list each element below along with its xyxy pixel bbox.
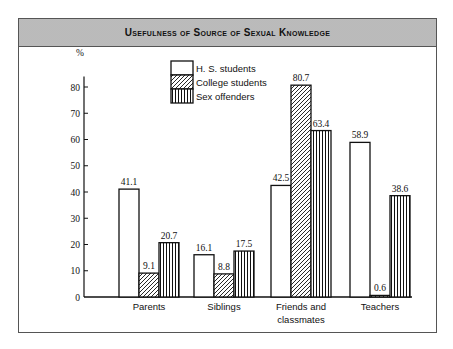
bar-value-label: 9.1	[143, 261, 155, 271]
legend-swatch	[171, 75, 193, 89]
category-label: Teachers	[361, 301, 400, 312]
bar-value-label: 0.6	[374, 283, 386, 293]
bars: 41.19.120.7Parents16.18.817.5Siblings42.…	[119, 73, 410, 325]
bar-value-label: 42.5	[273, 173, 290, 183]
legend-swatch	[171, 89, 193, 103]
y-tick-label: 20	[71, 240, 81, 250]
bar-group-parents: 41.19.120.7Parents	[119, 177, 179, 312]
bar	[350, 142, 370, 297]
bar	[291, 85, 311, 297]
bar	[390, 196, 410, 297]
category-label: Friends and	[276, 301, 326, 312]
legend-label: H. S. students	[196, 63, 256, 74]
bar-value-label: 41.1	[121, 177, 138, 187]
y-tick-label: 50	[71, 161, 81, 171]
bar-value-label: 80.7	[293, 73, 310, 83]
y-tick-label: 10	[71, 266, 81, 276]
y-tick-label: 40	[71, 188, 81, 198]
bar-value-label: 20.7	[161, 231, 178, 241]
bar-group-siblings: 16.18.817.5Siblings	[194, 239, 254, 312]
bar-value-label: 16.1	[196, 243, 213, 253]
y-tick-label: 60	[71, 135, 81, 145]
category-label: Parents	[133, 301, 166, 312]
bar	[139, 273, 159, 297]
bar-chart: %01020304050607080 41.19.120.7Parents16.…	[0, 0, 453, 349]
y-tick-label: 80	[71, 83, 81, 93]
y-tick-label: 70	[71, 109, 81, 119]
legend: H. S. studentsCollege studentsSex offend…	[171, 61, 267, 103]
legend-swatch	[171, 61, 193, 75]
category-label: Siblings	[207, 301, 241, 312]
bar	[159, 243, 179, 297]
bar	[271, 185, 291, 297]
y-tick-label: 30	[71, 214, 81, 224]
legend-label: Sex offenders	[196, 91, 255, 102]
y-unit-label: %	[76, 48, 84, 58]
bar	[370, 295, 390, 297]
legend-label: College students	[196, 77, 267, 88]
bar	[311, 131, 331, 297]
y-tick-label: 0	[75, 293, 80, 303]
category-label: classmates	[277, 314, 325, 325]
bar-value-label: 58.9	[352, 130, 369, 140]
bar-value-label: 8.8	[218, 262, 230, 272]
bar	[214, 274, 234, 297]
bar-value-label: 38.6	[392, 184, 409, 194]
bar-group-teachers: 58.90.638.6Teachers	[350, 130, 410, 312]
bar-value-label: 63.4	[313, 119, 330, 129]
bar	[194, 255, 214, 297]
bar-group-friends-and-classmates: 42.580.763.4Friends andclassmates	[271, 73, 331, 325]
bar	[119, 189, 139, 297]
bar	[234, 251, 254, 297]
bar-value-label: 17.5	[236, 239, 253, 249]
